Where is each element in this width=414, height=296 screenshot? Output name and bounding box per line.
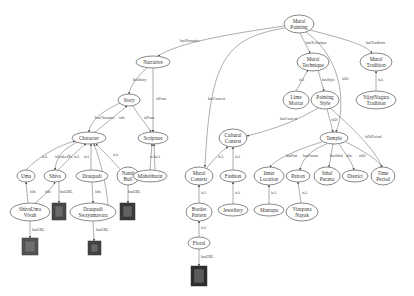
edge-label: isA [201, 191, 207, 195]
node-sthal-purana[interactable]: SthalPurana [314, 167, 340, 185]
edge-isA: isA [233, 147, 241, 170]
node-label: Mahabharat [138, 173, 163, 179]
node-shiva[interactable]: Shiva [44, 170, 66, 182]
edge-isA: isA [199, 185, 207, 203]
edge-hasTechnique: hasTechnique [300, 33, 327, 53]
node-label: Character [79, 135, 99, 141]
node-label: Mantapa [260, 207, 279, 213]
node-label: Mortar [289, 100, 304, 106]
edge-label: hasNarrative [180, 39, 200, 43]
knowledge-graph: hasNarrativehasTechniquehasTraditionhasC… [0, 0, 414, 296]
node-character[interactable]: Character [72, 132, 106, 144]
node-label: Painting [290, 24, 308, 30]
edge-label: hasURL [32, 228, 45, 232]
edge-label: isOf [359, 154, 366, 158]
edge-label: isIn [346, 154, 352, 158]
edge-label: hasURL [60, 190, 73, 194]
image-detail [55, 206, 63, 217]
node-time-period[interactable]: TimePeriod [371, 167, 395, 185]
node-temple[interactable]: Temple [320, 132, 348, 144]
node-label: Floral [193, 240, 206, 246]
edge-hasStory: hasStory [129, 68, 147, 94]
node-uma[interactable]: Uma [17, 170, 35, 182]
node-inner-location[interactable]: InnerLocation [254, 167, 284, 185]
node-border-pattern[interactable]: BorderPattern [186, 203, 212, 221]
node-vijaynagara-tradition[interactable]: VijayNagaraTradition [356, 91, 396, 109]
node-mural-technique[interactable]: MuralTechnique [297, 53, 329, 71]
node-label: Context [225, 138, 242, 144]
edge-label: hasContext [280, 117, 298, 121]
edge-line [26, 182, 28, 203]
node-label: Temple [326, 135, 342, 141]
node-label: Technique [302, 62, 324, 68]
node-floral[interactable]: Floral [188, 237, 210, 249]
node-mantapa[interactable]: Mantapa [254, 204, 284, 216]
edge-hasURL: hasURL [30, 221, 45, 238]
node-label: Tradition [366, 100, 386, 106]
node-mahabharat[interactable]: Mahabharat [133, 170, 167, 182]
edge-hasContext: hasContext [247, 108, 318, 136]
node-draupadi[interactable]: Draupadi [76, 170, 108, 182]
edge-line [298, 182, 301, 203]
node-label: Location [260, 176, 279, 182]
node-label: Story [123, 97, 135, 103]
image-detail [25, 241, 35, 252]
node-shivauma-vivah[interactable]: ShivaUmaVivah [10, 203, 50, 221]
node-mural-context[interactable]: MuralContext [185, 167, 213, 185]
image-thumbnail[interactable] [88, 241, 101, 255]
edge-label: isOfPeriod [365, 135, 382, 139]
image-thumbnail[interactable] [191, 266, 207, 286]
image-detail [123, 206, 132, 217]
edge-isOf: isOf [306, 32, 349, 132]
edge-isOf: isOf [327, 109, 338, 132]
edge-label: hasTradition [366, 41, 385, 45]
edge-label: isIn [30, 190, 36, 194]
edge-label: isA [74, 155, 80, 159]
edge-label: hasPatron [303, 154, 318, 158]
edge-label: isA [155, 155, 161, 159]
image-thumbnail[interactable] [120, 203, 135, 220]
edges-layer: hasNarrativehasTechniquehasTraditionhasC… [26, 26, 385, 266]
node-virupana-nayak[interactable]: VirupanaNayak [286, 203, 318, 221]
node-story[interactable]: Story [118, 94, 140, 106]
edge-label: isOf [342, 77, 349, 81]
edge-label: hasURL [96, 228, 109, 232]
edge-label: isA [201, 226, 207, 230]
node-patron[interactable]: Patron [286, 170, 310, 182]
edge-hasURL: hasURL [59, 182, 73, 203]
node-label: Context [191, 176, 208, 182]
node-scripture[interactable]: Scripture [138, 132, 168, 144]
edge-hasCharacter: hasCharacter [89, 103, 120, 132]
edge-label: isIn [45, 190, 51, 194]
node-narrative[interactable]: Narrative [136, 56, 170, 68]
node-lime-mortar[interactable]: LimeMortar [283, 91, 309, 109]
edge-line [92, 182, 93, 203]
edge-isA: isA [376, 71, 384, 91]
edge-isA: isA [296, 70, 308, 91]
edge-line [93, 221, 94, 241]
node-mural-tradition[interactable]: MuralTradition [360, 53, 392, 71]
node-label: Jewellery [223, 207, 243, 213]
node-label: Scripture [143, 135, 163, 141]
edge-label: isA [235, 191, 241, 195]
image-thumbnail[interactable] [52, 203, 66, 220]
image-thumbnail[interactable] [22, 238, 38, 255]
node-jewellery[interactable]: Jewellery [218, 204, 248, 216]
edge-label: isIn [95, 190, 101, 194]
edge-hasContext: hasContext [205, 28, 285, 167]
edge-label: hasStory [133, 78, 146, 82]
edge-label: hasPart [286, 154, 298, 158]
edge-isIn: isIn [92, 182, 101, 203]
node-fashion[interactable]: Fashion [220, 170, 246, 182]
node-district[interactable]: District [342, 170, 368, 182]
node-cultural-context[interactable]: CulturalContext [219, 129, 247, 147]
node-mural-painting[interactable]: MuralPainting [284, 15, 314, 33]
image-detail [194, 269, 204, 283]
node-painting-style[interactable]: PaintingStyle [311, 91, 339, 109]
node-label: Style [320, 100, 331, 106]
node-label: Narrative [143, 59, 163, 65]
node-draupadi-swayamavara[interactable]: DraupadiSwayamavara [70, 203, 116, 221]
node-label: Shiva [49, 173, 62, 179]
edge-hasStyle: hasStyle [318, 70, 335, 91]
node-label: Tradition [366, 62, 386, 68]
